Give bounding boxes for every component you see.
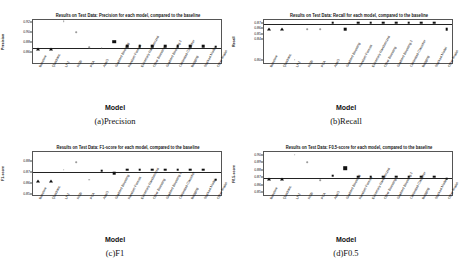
data-point (151, 168, 154, 171)
data-point (189, 168, 192, 171)
data-point (280, 27, 284, 30)
chart-title: Results on Test Data: F1-score for each … (30, 144, 226, 150)
data-point (331, 174, 334, 177)
data-point (88, 179, 90, 181)
panel-f05: Results on Test Data: F0.5-score for eac… (231, 132, 461, 263)
data-point (202, 168, 205, 171)
y-axis-label: Recall (232, 36, 236, 47)
data-point (138, 168, 141, 171)
data-point (344, 28, 347, 31)
y-tick-label: 0.88 (23, 40, 30, 44)
y-tick-mark (30, 182, 32, 183)
x-axis-title: Model (0, 236, 230, 243)
data-point (113, 172, 116, 175)
data-point (445, 28, 448, 31)
y-tick-mark (261, 192, 263, 193)
data-point (36, 47, 40, 50)
chart-title: Results on Test Data: Recall for each mo… (261, 12, 457, 18)
data-point (88, 46, 90, 48)
y-axis-label: Precision (1, 33, 5, 49)
y-tick-label: 0.88 (23, 159, 30, 163)
y-tick-mark (30, 193, 32, 194)
y-axis-ticks: 0.870.860.850.840.80 (239, 19, 261, 64)
data-point (382, 175, 385, 178)
x-axis-title: Model (231, 104, 461, 111)
data-point (433, 21, 436, 24)
data-point (176, 45, 179, 48)
y-tick-label: 0.86 (254, 26, 261, 30)
y-tick-mark (261, 59, 263, 60)
data-point (267, 27, 271, 30)
data-point (113, 40, 117, 44)
data-point (164, 168, 167, 171)
subfigure-caption: (a)Precision (0, 116, 230, 126)
y-axis-ticks: 0.900.890.880.870.860.85 (239, 151, 261, 196)
data-point (319, 179, 321, 181)
data-point (445, 177, 448, 180)
baseline-line (33, 172, 221, 173)
data-point (382, 21, 385, 24)
y-tick-label: 0.87 (254, 21, 261, 25)
y-tick-mark (261, 184, 263, 185)
y-tick-label: 0.85 (23, 192, 30, 196)
data-point (76, 161, 78, 163)
data-point (357, 21, 360, 24)
y-tick-mark (30, 31, 32, 32)
y-tick-mark (261, 38, 263, 39)
y-axis-label: F0.5-score (232, 165, 236, 183)
y-tick-label: 0.88 (254, 168, 261, 172)
data-point (267, 177, 271, 180)
data-point (395, 21, 398, 24)
data-point (369, 21, 372, 24)
panel-f1: Results on Test Data: F1-score for each … (0, 132, 230, 263)
y-tick-mark (30, 21, 32, 22)
plot-area (263, 151, 453, 196)
y-tick-mark (30, 171, 32, 172)
data-point (49, 179, 53, 182)
y-tick-mark (30, 41, 32, 42)
data-point (307, 161, 309, 163)
y-tick-label: 0.80 (254, 58, 261, 62)
chart-title: Results on Test Data: F0.5-score for eac… (261, 144, 457, 150)
data-point (319, 29, 321, 31)
subfigure-caption: (b)Recall (231, 116, 461, 126)
plot-area (263, 19, 453, 64)
data-point (344, 166, 348, 170)
panel-precision: Results on Test Data: Precision for each… (0, 0, 230, 131)
data-point (63, 169, 65, 171)
plot-area (32, 151, 222, 196)
baseline-line (33, 48, 221, 49)
data-point (395, 175, 398, 178)
chart-title: Results on Test Data: Precision for each… (30, 12, 226, 18)
figure-grid: Results on Test Data: Precision for each… (0, 0, 461, 263)
y-tick-mark (30, 160, 32, 161)
y-tick-label: 0.89 (254, 160, 261, 164)
y-tick-mark (261, 23, 263, 24)
data-point (101, 47, 103, 49)
y-tick-label: 0.86 (23, 50, 30, 54)
data-point (280, 177, 284, 180)
y-tick-label: 0.90 (23, 30, 30, 34)
data-point (151, 45, 154, 48)
y-tick-label: 0.86 (254, 183, 261, 187)
data-point (214, 45, 217, 48)
panel-recall: Results on Test Data: Recall for each mo… (231, 0, 461, 131)
data-point (331, 21, 334, 24)
y-tick-label: 0.87 (23, 170, 30, 174)
subfigure-caption: (d)F0.5 (231, 248, 461, 258)
data-point (126, 168, 129, 171)
data-point (214, 178, 217, 181)
data-point (176, 168, 179, 171)
data-point (100, 169, 103, 172)
data-point (407, 175, 410, 178)
data-point (189, 45, 192, 48)
y-tick-label: 0.87 (254, 175, 261, 179)
y-tick-label: 0.85 (254, 32, 261, 36)
y-tick-mark (30, 51, 32, 52)
data-point (36, 179, 40, 182)
y-tick-mark (261, 154, 263, 155)
y-tick-label: 0.90 (254, 153, 261, 157)
x-axis-title: Model (0, 104, 230, 111)
plot-area (32, 19, 222, 64)
y-tick-mark (261, 28, 263, 29)
